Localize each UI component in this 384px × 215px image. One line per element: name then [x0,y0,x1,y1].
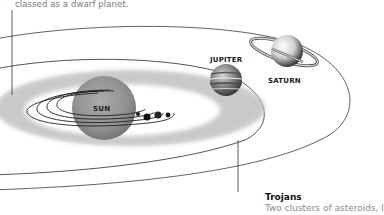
earth [154,111,161,118]
mars [166,113,171,118]
venus [144,114,151,121]
sun-label: SUN [93,105,110,113]
saturn-planet [248,33,320,72]
mercury [136,112,140,116]
trojans-title: Trojans [265,192,302,202]
jupiter-label: JUPITER [210,56,242,64]
saturn-label: SATURN [268,77,301,85]
dwarf-planet-caption: classed as a dwarf planet. [15,0,129,9]
jupiter-planet [210,64,242,96]
trojans-description: Two clusters of asteroids, l [265,203,384,213]
